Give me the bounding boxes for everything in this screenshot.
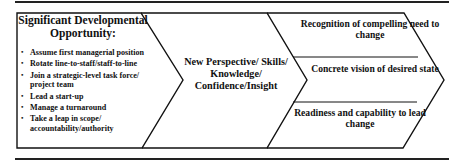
list-item: Take a leap in scope/ accountability/aut… — [20, 114, 150, 133]
list-item: Assume first managerial position — [20, 48, 150, 58]
list-item: Join a strategic-level task force/ proje… — [20, 71, 150, 90]
opportunity-list: Assume first managerial position Rotate … — [20, 48, 150, 135]
middle-chevron-text: New Perspective/ Skills/ Knowledge/ Conf… — [176, 56, 296, 93]
left-box-title: Significant Developmental Opportunity: — [18, 14, 148, 40]
right-row-recognition: Recognition of compelling need to change — [300, 19, 440, 40]
right-row-readiness: Readiness and capability to lead change — [290, 108, 430, 129]
list-item: Manage a turnaround — [20, 103, 150, 113]
list-item: Rotate line-to-staff/staff-to-line — [20, 59, 150, 69]
right-row-vision: Concrete vision of desired state — [305, 64, 445, 75]
list-item: Lead a start-up — [20, 92, 150, 102]
